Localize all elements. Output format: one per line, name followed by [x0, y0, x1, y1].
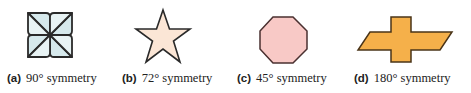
caption-tag: (d) [354, 72, 369, 84]
figure-c: (c)45° symmetry [230, 0, 345, 93]
caption-text: 72° symmetry [142, 71, 213, 85]
caption-tag: (c) [237, 72, 251, 84]
figure-d: (d)180° symmetry [345, 0, 471, 93]
figure-b: (b)72° symmetry [115, 0, 230, 93]
bowtie-cross-shape [345, 0, 471, 70]
caption-c: (c)45° symmetry [237, 71, 327, 86]
caption-tag: (b) [122, 72, 137, 84]
pinwheel-shape [0, 0, 115, 70]
star-shape [115, 0, 230, 70]
octagon-shape [230, 0, 345, 70]
caption-text: 90° symmetry [26, 71, 97, 85]
caption-text: 45° symmetry [256, 71, 327, 85]
caption-a: (a)90° symmetry [7, 71, 97, 86]
caption-text: 180° symmetry [374, 71, 451, 85]
caption-tag: (a) [7, 72, 21, 84]
figure-a: (a)90° symmetry [0, 0, 115, 93]
caption-b: (b)72° symmetry [122, 71, 212, 86]
caption-d: (d)180° symmetry [354, 71, 451, 86]
